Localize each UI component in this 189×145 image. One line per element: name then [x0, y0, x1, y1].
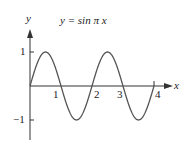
y-tick-label-minus1: −1 — [13, 114, 25, 125]
x-tick-label-4: 4 — [155, 89, 161, 100]
y-axis-arrow-icon — [27, 29, 33, 38]
x-axis-arrow-icon — [164, 83, 173, 89]
chart-title: y = sin π x — [60, 14, 107, 26]
y-axis-label: y — [26, 13, 31, 24]
x-tick-label-1: 1 — [53, 89, 59, 100]
x-tick-label-2: 2 — [94, 89, 100, 100]
x-axis-label: x — [174, 80, 179, 91]
x-tick-label-3: 3 — [117, 89, 123, 100]
y-tick-label-1: 1 — [20, 46, 26, 57]
